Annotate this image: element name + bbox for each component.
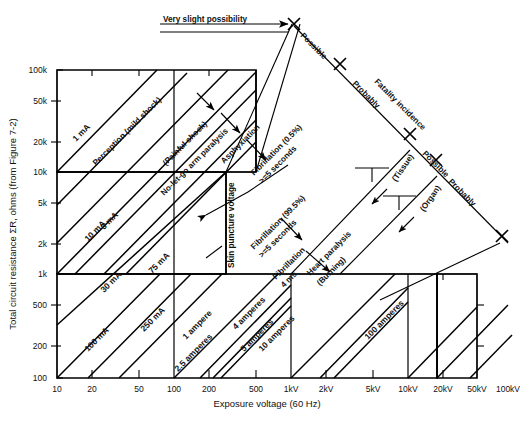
x-tick-20kv: 20kV	[433, 384, 453, 394]
risk-labels: Very slight possibility Possible Probabl…	[163, 15, 478, 213]
x-tick-500: 500	[249, 384, 263, 394]
x-tick-2kv: 2kV	[319, 384, 334, 394]
x-tick-100: 100	[167, 384, 181, 394]
curve-label-250ma: 250 mA	[138, 305, 166, 333]
chart-canvas: 100k 50k 20k 10k 5k 2k 1k 500 200 100 10…	[0, 0, 524, 422]
y-axis-label: Total circuit resistance ΣR, ohms (from …	[7, 118, 18, 329]
annotation-skin-puncture-voltage: Skin puncture voltage	[227, 182, 236, 268]
y-tick-labels: 100k 50k 20k 10k 5k 2k 1k 500 200 100	[29, 65, 48, 383]
x-tick-50kv: 50kV	[467, 384, 487, 394]
risk-possible-2: Possible	[421, 149, 451, 179]
curve-label-100ma: 100 mA	[82, 325, 110, 353]
x-tick-50: 50	[134, 384, 144, 394]
risk-probably-2: Probably	[447, 177, 478, 208]
x-tick-5kv: 5kV	[366, 384, 381, 394]
annotation-perception: Perception (mild shock)	[91, 95, 163, 167]
y-tick-1k: 1k	[38, 269, 48, 279]
risk-organ: (Organ)	[418, 184, 442, 214]
curve-label-30ma: 30 mA	[98, 269, 123, 294]
x-tick-1kv: 1kV	[284, 384, 299, 394]
y-tick-20k: 20k	[33, 137, 47, 147]
x-tick-20: 20	[87, 384, 97, 394]
y-tick-50k: 50k	[33, 96, 47, 106]
risk-very-slight-possibility: Very slight possibility	[163, 15, 248, 24]
x-axis-label: Exposure voltage (60 Hz)	[213, 398, 320, 409]
y-tick-200: 200	[33, 341, 47, 351]
shock-hazard-figure: 100k 50k 20k 10k 5k 2k 1k 500 200 100 10…	[0, 0, 524, 422]
fatality-incidence-scale	[160, 18, 508, 300]
curve-label-2p5a: 2.5 amperes	[172, 331, 214, 373]
y-tick-10k: 10k	[33, 167, 47, 177]
y-tick-500: 500	[33, 300, 47, 310]
y-tick-2k: 2k	[38, 239, 48, 249]
curve-label-75ma: 75 mA	[146, 250, 171, 275]
x-tick-10: 10	[52, 384, 62, 394]
x-tick-labels: 10 20 50 100 200 500 1kV 2kV 5kV 10kV 20…	[52, 384, 520, 394]
risk-possible-1: Possible	[299, 31, 329, 61]
y-tick-100k: 100k	[29, 65, 48, 75]
y-tick-5k: 5k	[38, 198, 48, 208]
y-tick-100: 100	[33, 373, 47, 383]
x-tick-10kv: 10kV	[398, 384, 418, 394]
curve-label-100a: 100 amperes	[362, 298, 406, 342]
x-tick-200: 200	[202, 384, 216, 394]
x-tick-100kv: 100kV	[496, 384, 520, 394]
